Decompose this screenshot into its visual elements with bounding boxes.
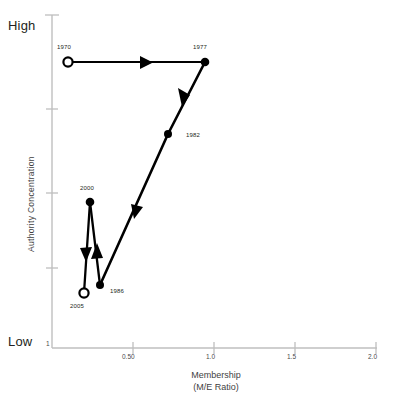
chart-container: High Low 1 Authority Concentration 0.50 … — [0, 0, 393, 402]
point-label-2005: 2005 — [70, 303, 84, 309]
x-tick-label-1: 1.0 — [206, 353, 215, 360]
arrowhead-1982-1986 — [131, 204, 143, 219]
marker-1982 — [164, 130, 172, 138]
point-label-1977: 1977 — [193, 44, 207, 50]
point-label-1970: 1970 — [57, 44, 71, 50]
segment-1986-2000 — [90, 202, 100, 285]
x-axis-subtitle: (M/E Ratio) — [136, 381, 296, 394]
point-label-1982: 1982 — [186, 132, 200, 138]
x-axis-origin-label: 1 — [46, 340, 50, 347]
marker-2005 — [79, 288, 88, 297]
arrowhead-1970-1977 — [140, 56, 153, 69]
point-label-1986: 1986 — [110, 288, 124, 294]
x-tick-label-0: 0.50 — [122, 353, 135, 360]
y-axis-low-label: Low — [8, 334, 32, 349]
x-tick-label-2: 1.5 — [287, 353, 296, 360]
arrowhead-1986-2000 — [91, 243, 103, 259]
marker-1986 — [96, 281, 104, 289]
marker-1970 — [63, 57, 72, 66]
y-axis-title: Authority Concentration — [26, 156, 36, 252]
arrowhead-2000-2005 — [80, 247, 92, 262]
point-label-2000: 2000 — [80, 185, 94, 191]
chart-plot-area — [0, 0, 393, 402]
x-tick-label-3: 2.0 — [368, 353, 377, 360]
marker-1977 — [201, 58, 210, 67]
y-axis-high-label: High — [8, 18, 36, 33]
direction-arrowheads — [80, 56, 190, 262]
marker-2000 — [86, 198, 95, 207]
